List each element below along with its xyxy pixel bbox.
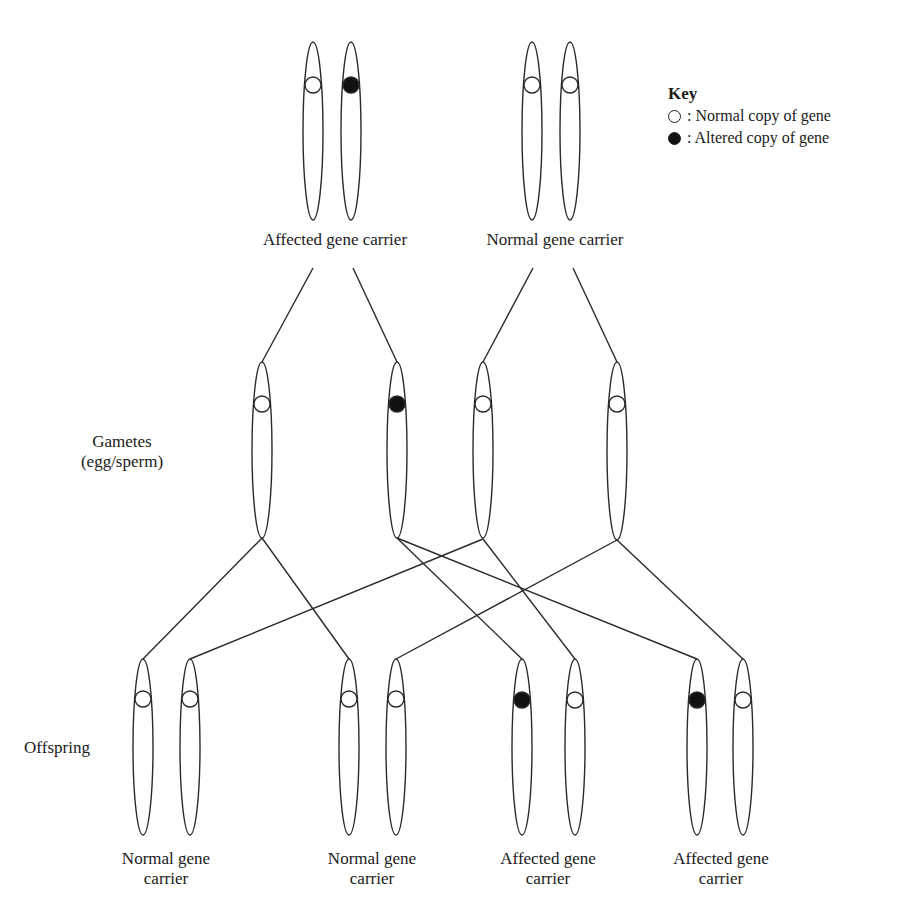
offspring-1-label-line1: Normal gene bbox=[96, 849, 236, 869]
chromosome bbox=[522, 42, 542, 220]
chromosome bbox=[687, 659, 707, 835]
legend-item-altered: : Altered copy of gene bbox=[668, 127, 831, 149]
chromosome bbox=[560, 42, 580, 220]
chromosome bbox=[473, 362, 493, 538]
gamete-to-offspring-lines bbox=[143, 538, 743, 659]
offspring-chromosomes bbox=[133, 659, 753, 835]
normal-gene-icon bbox=[341, 691, 357, 707]
parent-to-gamete-lines bbox=[262, 268, 617, 362]
altered-gene-icon bbox=[343, 77, 359, 93]
parent-affected-chromosomes bbox=[303, 42, 361, 220]
chromosome bbox=[565, 659, 585, 835]
gametes-sublabel: (egg/sperm) bbox=[62, 452, 182, 472]
chromosome bbox=[733, 659, 753, 835]
chromosome bbox=[512, 659, 532, 835]
offspring-2-label-line1: Normal gene bbox=[302, 849, 442, 869]
offspring-label: Offspring bbox=[12, 738, 102, 758]
offspring-1-label-line2: carrier bbox=[96, 869, 236, 889]
offspring-2-label-line2: carrier bbox=[302, 869, 442, 889]
normal-gene-icon bbox=[254, 396, 270, 412]
legend-label: : Altered copy of gene bbox=[687, 127, 829, 149]
gametes-label: Gametes bbox=[62, 432, 182, 452]
normal-gene-icon bbox=[182, 691, 198, 707]
offspring-4-label-line1: Affected gene bbox=[651, 849, 791, 869]
offspring-3-label-line2: carrier bbox=[478, 869, 618, 889]
parent-label-affected: Affected gene carrier bbox=[240, 230, 430, 250]
chromosome bbox=[607, 362, 627, 540]
normal-gene-icon bbox=[388, 691, 404, 707]
open-circle-icon bbox=[668, 110, 681, 123]
filled-circle-icon bbox=[668, 132, 681, 145]
altered-gene-icon bbox=[689, 692, 705, 708]
normal-gene-icon bbox=[735, 692, 751, 708]
legend-label: : Normal copy of gene bbox=[687, 105, 831, 127]
normal-gene-icon bbox=[562, 77, 578, 93]
offspring-4-label-line2: carrier bbox=[651, 869, 791, 889]
normal-gene-icon bbox=[567, 692, 583, 708]
legend-item-normal: : Normal copy of gene bbox=[668, 105, 831, 127]
chromosome bbox=[386, 659, 406, 835]
normal-gene-icon bbox=[305, 77, 321, 93]
altered-gene-icon bbox=[514, 692, 530, 708]
chromosome bbox=[387, 362, 407, 538]
normal-gene-icon bbox=[524, 77, 540, 93]
normal-gene-icon bbox=[475, 396, 491, 412]
chromosome bbox=[180, 659, 200, 835]
offspring-3-label-line1: Affected gene bbox=[478, 849, 618, 869]
chromosome bbox=[133, 659, 153, 835]
chromosome bbox=[341, 42, 361, 220]
parent-label-normal: Normal gene carrier bbox=[460, 230, 650, 250]
gamete-chromosomes bbox=[252, 362, 627, 540]
parent-normal-chromosomes bbox=[522, 42, 580, 220]
normal-gene-icon bbox=[135, 691, 151, 707]
chromosome bbox=[303, 42, 323, 220]
altered-gene-icon bbox=[389, 396, 405, 412]
chromosome bbox=[339, 659, 359, 835]
chromosome bbox=[252, 362, 272, 538]
legend-title: Key bbox=[668, 83, 831, 105]
legend: Key : Normal copy of gene : Altered copy… bbox=[668, 83, 831, 149]
normal-gene-icon bbox=[609, 396, 625, 412]
